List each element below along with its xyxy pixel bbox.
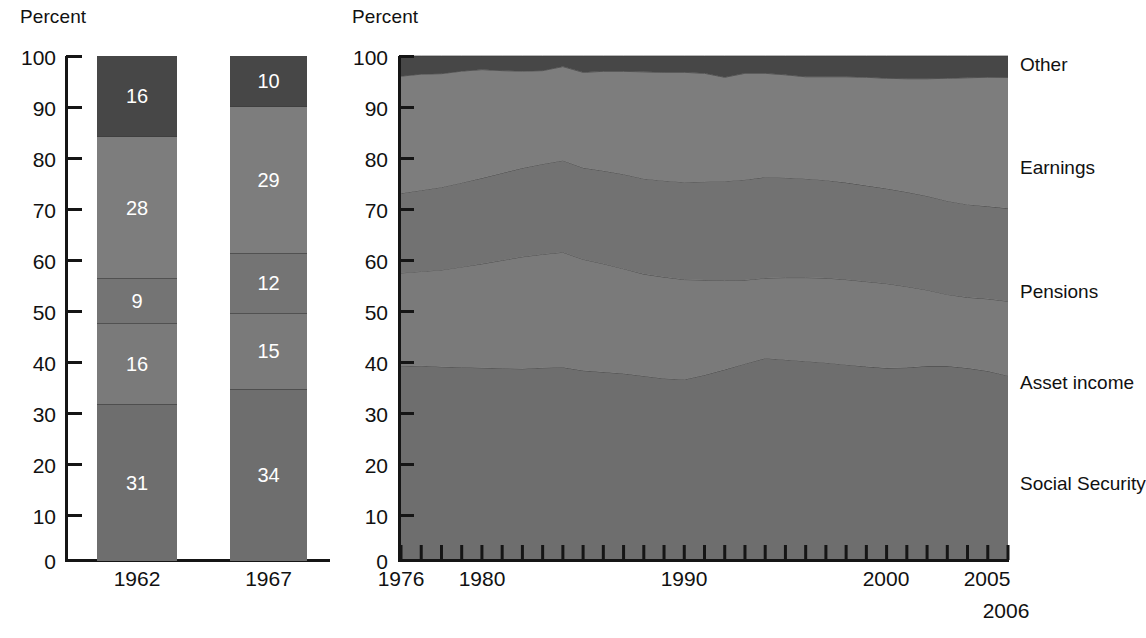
legend-label-earnings: Earnings xyxy=(1020,158,1095,177)
right-axis-xticks xyxy=(401,545,1008,560)
legend-label-other: Other xyxy=(1020,55,1068,74)
right-xtick-1980: 1980 xyxy=(438,568,526,589)
legend-label-social-security: Social Security xyxy=(1020,474,1146,493)
right-xtick-2000: 2000 xyxy=(842,568,930,589)
right-xtick-1976: 1976 xyxy=(357,568,445,589)
right-axis-yticks xyxy=(399,57,414,516)
legend-label-pensions: Pensions xyxy=(1020,282,1098,301)
right-xtick-2005: 2005 xyxy=(943,568,1031,589)
right-xtick-1990: 1990 xyxy=(640,568,728,589)
right-xtick-2006: 2006 xyxy=(962,600,1050,621)
legend-label-asset-income: Asset income xyxy=(1020,373,1134,392)
